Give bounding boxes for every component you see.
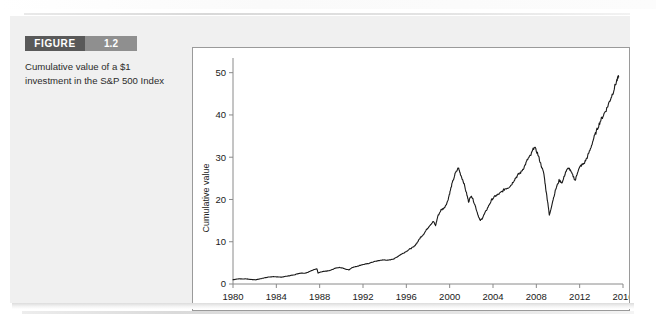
- x-tick-label: 1988: [309, 291, 330, 302]
- figure-panel: FIGURE 1.2 Cumulative value of a $1 inve…: [10, 16, 630, 303]
- figure-number-badge: 1.2: [85, 36, 137, 51]
- figure-badge-row: FIGURE 1.2: [25, 36, 137, 51]
- y-tick-label: 40: [215, 109, 226, 120]
- x-tick-label: 2008: [526, 291, 547, 302]
- x-tick-label: 1996: [396, 291, 417, 302]
- data-series-group: [233, 75, 619, 279]
- y-tick-label: 30: [215, 152, 226, 163]
- y-tick-label: 50: [215, 67, 226, 78]
- y-tick-label: 10: [215, 236, 226, 247]
- scan-bleed-artifact: [0, 0, 656, 9]
- x-tick-label: 2000: [439, 291, 460, 302]
- x-tick-label: 1984: [266, 291, 287, 302]
- y-tick-label: 0: [221, 278, 226, 289]
- x-tick-label: 2012: [569, 291, 590, 302]
- data-series-line: [233, 75, 619, 279]
- y-tick-label: 20: [215, 194, 226, 205]
- figure-caption-block: FIGURE 1.2 Cumulative value of a $1 inve…: [25, 36, 185, 87]
- x-tick-label: 2016: [612, 291, 629, 302]
- figure-label-badge: FIGURE: [25, 36, 85, 51]
- y-axis-title: Cumulative value: [201, 163, 211, 232]
- y-axis: 01020304050: [215, 58, 233, 289]
- chart-frame: 01020304050 1980198419881992199620002004…: [192, 47, 630, 311]
- cumulative-value-line-chart: 01020304050 1980198419881992199620002004…: [193, 48, 629, 310]
- x-tick-label: 2004: [482, 291, 503, 302]
- panel-shadow: [12, 303, 634, 309]
- x-axis: 1980198419881992199620002004200820122016: [222, 284, 629, 302]
- top-divider-rule: [24, 13, 630, 15]
- x-tick-label: 1992: [352, 291, 373, 302]
- figure-caption-text: Cumulative value of a $1 investment in t…: [25, 60, 175, 87]
- x-tick-label: 1980: [222, 291, 243, 302]
- bottom-divider-rule: [22, 311, 634, 314]
